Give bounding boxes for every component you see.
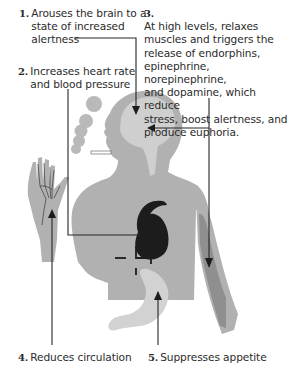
annotation-1: 1.Arouses the brain to a state of increa… (19, 7, 149, 47)
smoke-icon (71, 96, 102, 154)
annotation-2-text: Increases heart rate and blood pressure (30, 65, 135, 91)
annotation-4-text: Reduces circulation (30, 351, 131, 363)
annotation-3-text: At high levels, relaxes muscles and trig… (144, 20, 291, 139)
annotation-5-number: 5. (148, 352, 158, 363)
hand-icon (28, 157, 69, 262)
cigarette-icon (91, 151, 111, 154)
annotation-5: 5.Suppresses appetite (148, 351, 288, 364)
annotation-5-text: Suppresses appetite (160, 351, 266, 363)
annotation-3-number: 3. (144, 8, 154, 19)
annotation-4: 4.Reduces circulation (18, 351, 148, 364)
annotation-3: 3.At high levels, relaxes muscles and tr… (144, 7, 291, 139)
annotation-1-number: 1. (19, 8, 29, 19)
annotation-2-number: 2. (18, 66, 28, 77)
annotation-1-text: Arouses the brain to a state of increase… (31, 7, 146, 47)
annotation-2: 2.Increases heart rate and blood pressur… (18, 65, 138, 91)
annotation-4-number: 4. (18, 352, 28, 363)
